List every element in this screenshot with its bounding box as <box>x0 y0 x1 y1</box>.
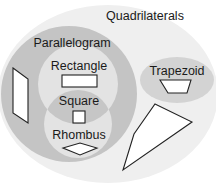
trapezoid-label: Trapezoid <box>149 64 204 78</box>
rectangle-label: Rectangle <box>51 59 107 73</box>
rectangle-shape-icon <box>62 75 97 87</box>
parallelogram-label: Parallelogram <box>33 36 110 50</box>
square-label: Square <box>59 94 99 108</box>
rhombus-label: Rhombus <box>52 128 106 142</box>
quadrilaterals-label: Quadrilaterals <box>106 9 184 23</box>
square-shape-icon <box>73 111 85 123</box>
quadrilaterals-venn-diagram: Quadrilaterals Parallelogram Rectangle S… <box>0 0 216 187</box>
